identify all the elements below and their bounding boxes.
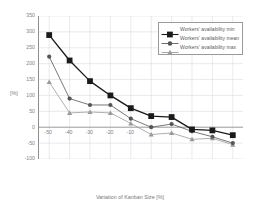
data-point [46, 32, 52, 38]
legend-label-min: Workers' availability min [179, 27, 235, 32]
data-point [47, 80, 52, 85]
data-point [67, 58, 73, 64]
x-axis-title: Variation of Kanban Size [%] [0, 194, 260, 200]
legend-marker-triangle-icon [161, 43, 179, 52]
legend-marker-circle-icon [161, 34, 179, 43]
data-point [47, 55, 51, 59]
data-point [149, 125, 153, 129]
data-point [148, 113, 154, 119]
y-axis-tick: 350 [14, 13, 35, 18]
data-point [68, 97, 72, 101]
y-axis-title: [%] [10, 90, 18, 96]
data-point [230, 132, 236, 138]
y-axis-tick: 50 [14, 109, 35, 114]
data-point [129, 117, 133, 121]
y-axis-tick: 150 [14, 77, 35, 82]
data-point [128, 105, 134, 111]
y-axis-tick: -100 [14, 156, 35, 161]
legend-label-mean: Workers' availability mean [179, 36, 239, 41]
legend-label-max: Workers' availability max [179, 45, 236, 50]
data-point [231, 141, 235, 145]
y-axis-tick: 300 [14, 29, 35, 34]
chart-legend: Workers' availability min Workers' avail… [158, 22, 243, 55]
legend-marker-square-icon [161, 25, 179, 34]
data-point [210, 128, 216, 134]
data-point [210, 135, 214, 139]
data-point [108, 103, 112, 107]
data-point [170, 122, 174, 126]
y-axis-tick: 250 [14, 45, 35, 50]
data-point [88, 103, 92, 107]
data-point [189, 127, 195, 133]
data-point [108, 93, 114, 99]
legend-item-min[interactable]: Workers' availability min [161, 25, 239, 34]
legend-item-mean[interactable]: Workers' availability mean [161, 34, 239, 43]
legend-item-max[interactable]: Workers' availability max [161, 43, 239, 52]
chart-figure: 350300250200150100500-50-100 -50-40-30-2… [0, 0, 260, 212]
data-point [87, 78, 93, 84]
y-axis-tick: 0 [14, 125, 35, 130]
y-axis-tick: -50 [14, 141, 35, 146]
data-point [128, 121, 133, 126]
y-axis-tick: 200 [14, 61, 35, 66]
data-point [169, 114, 175, 120]
